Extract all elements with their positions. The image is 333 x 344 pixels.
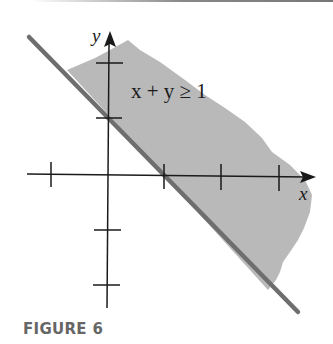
y-axis-arrow-icon bbox=[104, 31, 116, 47]
graph: y x x + y ≥ 1 bbox=[0, 0, 333, 344]
figure-caption: FIGURE 6 bbox=[23, 320, 103, 338]
shaded-region bbox=[67, 40, 312, 290]
inequality-figure: y x x + y ≥ 1 FIGURE 6 bbox=[0, 0, 333, 344]
inequality-label: x + y ≥ 1 bbox=[131, 79, 207, 103]
x-axis-label: x bbox=[298, 183, 308, 204]
y-axis-label: y bbox=[90, 25, 101, 46]
